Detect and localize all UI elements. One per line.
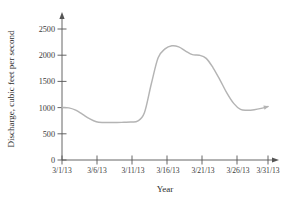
x-tick-label-7: 3/31/13 bbox=[256, 166, 279, 175]
y-tick-label-500: 500 bbox=[43, 130, 55, 139]
y-axis-title: Discharge, cubic feet per second bbox=[6, 30, 16, 148]
plot-area bbox=[62, 46, 269, 123]
discharge-series-line bbox=[62, 46, 268, 123]
y-tick-label-1000: 1000 bbox=[39, 104, 55, 113]
x-axis-arrow-icon bbox=[272, 157, 279, 162]
y-axis-arrow-icon bbox=[59, 12, 64, 19]
x-axis-title: Year bbox=[157, 184, 174, 194]
y-tick-label-2500: 2500 bbox=[39, 25, 55, 34]
x-tick-label-2: 3/6/13 bbox=[87, 166, 107, 175]
chart-figure: 0 500 1000 1500 2000 2500 Discharge, cub… bbox=[0, 0, 289, 202]
y-tick-label-2000: 2000 bbox=[39, 51, 55, 60]
discharge-line-chart: 0 500 1000 1500 2000 2500 Discharge, cub… bbox=[0, 0, 289, 202]
y-axis-group: 0 500 1000 1500 2000 2500 Discharge, cub… bbox=[6, 12, 67, 165]
x-tick-label-1: 3/1/13 bbox=[52, 166, 72, 175]
x-tick-label-3: 3/11/13 bbox=[122, 166, 145, 175]
y-tick-label-1500: 1500 bbox=[39, 77, 55, 86]
x-tick-label-6: 3/26/13 bbox=[226, 166, 249, 175]
x-tick-label-5: 3/21/13 bbox=[191, 166, 214, 175]
y-tick-label-0: 0 bbox=[51, 156, 55, 165]
x-tick-label-4: 3/16/13 bbox=[156, 166, 179, 175]
x-axis-group: 3/1/13 3/6/13 3/11/13 3/16/13 3/21/13 3/… bbox=[52, 156, 280, 195]
